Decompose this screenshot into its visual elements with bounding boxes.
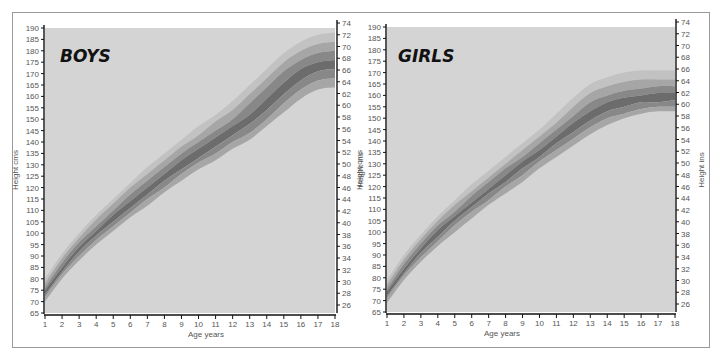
- y-tick-label: 100: [26, 229, 40, 238]
- x-tick-label: 18: [331, 320, 340, 329]
- y-tick-label: 180: [368, 46, 382, 55]
- x-tick-label: 1: [385, 319, 390, 328]
- y-tick-label: 135: [368, 148, 382, 157]
- y-tick-label: 130: [368, 160, 382, 169]
- y-tick-label: 120: [26, 184, 40, 193]
- x-tick-label: 3: [77, 320, 82, 329]
- y-tick-label: 120: [368, 183, 382, 192]
- y-right-tick-label: 26: [681, 300, 690, 309]
- x-tick-label: 12: [569, 319, 578, 328]
- y-right-tick-label: 26: [342, 301, 351, 310]
- y-right-tick-label: 38: [681, 230, 690, 239]
- y-right-tick-label: 36: [681, 241, 690, 250]
- x-tick-label: 7: [145, 320, 150, 329]
- y-right-tick-label: 54: [342, 137, 351, 146]
- x-tick-label: 1: [43, 320, 48, 329]
- x-tick-label: 14: [603, 319, 612, 328]
- y-tick-label: 140: [368, 137, 382, 146]
- y-right-tick-label: 66: [681, 65, 690, 74]
- y-right-tick-label: 66: [342, 66, 351, 75]
- x-tick-label: 5: [111, 320, 116, 329]
- y-tick-label: 155: [26, 104, 40, 113]
- x-tick-label: 2: [402, 319, 407, 328]
- y-right-tick-label: 72: [681, 30, 690, 39]
- y-tick-label: 135: [26, 149, 40, 158]
- y-tick-label: 110: [368, 205, 381, 214]
- y-tick-label: 75: [30, 286, 39, 295]
- x-tick-label: 8: [503, 319, 508, 328]
- y-tick-label: 165: [368, 80, 382, 89]
- x-tick-label: 11: [552, 319, 561, 328]
- y-tick-label: 80: [30, 275, 39, 284]
- x-tick-label: 9: [520, 319, 525, 328]
- y-right-tick-label: 48: [342, 172, 351, 181]
- y-tick-label: 165: [26, 81, 40, 90]
- y-right-tick-label: 30: [342, 278, 351, 287]
- y-right-tick-label: 60: [681, 100, 690, 109]
- y-tick-label: 130: [26, 161, 40, 170]
- y-tick-label: 115: [368, 194, 381, 203]
- y-tick-label: 190: [26, 24, 40, 33]
- y-tick-label: 110: [26, 206, 39, 215]
- y-right-tick-label: 40: [342, 219, 351, 228]
- y-right-tick-label: 28: [681, 288, 690, 297]
- y-tick-label: 170: [368, 69, 382, 78]
- y-tick-label: 175: [26, 58, 40, 67]
- y-right-tick-label: 44: [681, 194, 690, 203]
- x-tick-label: 10: [194, 320, 203, 329]
- x-tick-label: 8: [162, 320, 167, 329]
- y-tick-label: 145: [26, 127, 40, 136]
- y-tick-label: 65: [372, 308, 381, 317]
- x-tick-label: 13: [586, 319, 595, 328]
- y-tick-label: 125: [26, 172, 40, 181]
- x-tick-label: 6: [469, 319, 474, 328]
- y-right-tick-label: 48: [681, 171, 690, 180]
- x-tick-label: 5: [453, 319, 458, 328]
- x-axis-label: Age years: [188, 330, 224, 339]
- x-tick-label: 17: [654, 319, 663, 328]
- x-tick-label: 12: [228, 320, 237, 329]
- y-right-tick-label: 40: [681, 218, 690, 227]
- y-axis-label: Height cms: [11, 150, 20, 190]
- y-right-tick-label: 36: [342, 242, 351, 251]
- y-right-axis-label: Height ins: [697, 152, 706, 188]
- y-right-tick-label: 58: [681, 112, 690, 121]
- y-right-tick-label: 32: [681, 265, 690, 274]
- y-tick-label: 70: [372, 297, 381, 306]
- x-tick-label: 4: [94, 320, 99, 329]
- y-right-tick-label: 42: [342, 207, 351, 216]
- y-right-tick-label: 74: [681, 18, 690, 27]
- y-right-tick-label: 70: [342, 43, 351, 52]
- y-tick-label: 175: [368, 57, 382, 66]
- y-tick-label: 70: [30, 298, 39, 307]
- y-right-tick-label: 62: [342, 90, 351, 99]
- y-tick-label: 180: [26, 47, 40, 56]
- y-right-tick-label: 52: [681, 147, 690, 156]
- y-right-tick-label: 70: [681, 42, 690, 51]
- x-tick-label: 11: [211, 320, 220, 329]
- y-right-tick-label: 50: [681, 159, 690, 168]
- y-tick-label: 185: [368, 34, 382, 43]
- chart-title: BOYS: [60, 46, 111, 66]
- growth-charts: 6570758085909510010511011512012513013514…: [0, 0, 716, 355]
- y-tick-label: 95: [30, 241, 39, 250]
- y-tick-label: 85: [30, 263, 39, 272]
- y-right-tick-label: 28: [342, 289, 351, 298]
- y-tick-label: 95: [372, 240, 381, 249]
- y-right-tick-label: 68: [681, 53, 690, 62]
- x-tick-label: 14: [262, 320, 271, 329]
- y-right-tick-label: 46: [342, 184, 351, 193]
- y-tick-label: 100: [368, 228, 382, 237]
- y-right-tick-label: 62: [681, 89, 690, 98]
- chart-title: GIRLS: [398, 46, 454, 66]
- y-tick-label: 105: [368, 217, 382, 226]
- x-axis-label: Age years: [484, 329, 520, 338]
- x-tick-label: 3: [419, 319, 424, 328]
- y-tick-label: 150: [26, 115, 40, 124]
- y-tick-label: 150: [368, 114, 382, 123]
- y-tick-label: 115: [26, 195, 39, 204]
- x-tick-label: 10: [535, 319, 544, 328]
- girls-chart: 6570758085909510010511011512012513013514…: [355, 18, 706, 338]
- x-tick-label: 7: [486, 319, 491, 328]
- y-tick-label: 90: [372, 251, 381, 260]
